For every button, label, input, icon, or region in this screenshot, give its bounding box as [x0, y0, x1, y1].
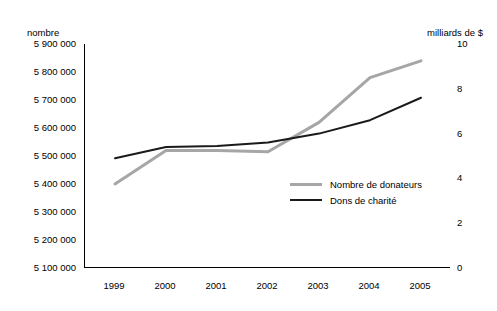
chart-legend: Nombre de donateursDons de charité — [290, 176, 422, 208]
x-axis-tick: 2001 — [205, 280, 226, 291]
right-axis-tick: 8 — [457, 83, 462, 94]
series-line-2 — [115, 98, 421, 158]
legend-item: Dons de charité — [290, 192, 422, 208]
left-axis-tick: 5 900 000 — [0, 38, 76, 49]
legend-label: Nombre de donateurs — [330, 179, 422, 190]
right-axis-tick: 10 — [457, 38, 468, 49]
left-axis-tick: 5 500 000 — [0, 150, 76, 161]
right-axis-title: milliards de $ — [427, 27, 483, 38]
legend-swatch-icon — [290, 183, 322, 186]
left-axis-tick: 5 800 000 — [0, 66, 76, 77]
legend-label: Dons de charité — [330, 195, 397, 206]
left-axis-tick: 5 300 000 — [0, 206, 76, 217]
right-axis-tick: 0 — [457, 262, 462, 273]
right-axis-tick: 4 — [457, 172, 462, 183]
left-axis-tick: 5 400 000 — [0, 178, 76, 189]
left-axis-tick: 5 700 000 — [0, 94, 76, 105]
left-axis-tick: 5 600 000 — [0, 122, 76, 133]
plot-area — [84, 44, 450, 268]
x-axis-tick: 2000 — [154, 280, 175, 291]
x-axis-tick: 2005 — [409, 280, 430, 291]
x-axis-tick: 1999 — [103, 280, 124, 291]
chart-container: nombre milliards de $ 5 100 0005 200 000… — [0, 0, 497, 311]
left-axis-tick: 5 200 000 — [0, 234, 76, 245]
x-axis-tick: 2002 — [256, 280, 277, 291]
left-axis-title: nombre — [27, 27, 59, 38]
x-axis-tick: 2003 — [307, 280, 328, 291]
right-axis-tick: 6 — [457, 128, 462, 139]
x-axis-tick: 2004 — [358, 280, 379, 291]
left-axis-tick: 5 100 000 — [0, 262, 76, 273]
legend-swatch-icon — [290, 199, 322, 201]
series-line-1 — [115, 61, 421, 184]
legend-item: Nombre de donateurs — [290, 176, 422, 192]
right-axis-tick: 2 — [457, 217, 462, 228]
series-lines — [85, 44, 451, 268]
